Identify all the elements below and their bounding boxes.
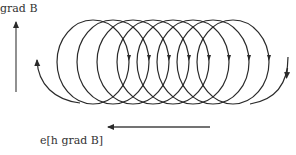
- gyration-loop: [137, 20, 209, 104]
- gyration-loop: [197, 20, 269, 104]
- direction-arrowhead: [207, 55, 211, 61]
- gyration-loop: [97, 20, 169, 104]
- direction-arrowhead: [187, 55, 191, 61]
- gyration-loop: [117, 20, 189, 104]
- trajectory-start-curve: [37, 60, 80, 103]
- direction-arrowhead: [247, 55, 251, 61]
- direction-arrowhead: [267, 55, 271, 61]
- direction-arrowhead: [227, 55, 231, 61]
- gyration-loop: [77, 20, 149, 104]
- direction-arrowhead: [127, 55, 131, 61]
- direction-arrowhead: [147, 55, 151, 61]
- gyration-loop: [157, 20, 229, 104]
- gradient-drift-diagram: [0, 0, 296, 155]
- direction-arrowhead: [167, 55, 171, 61]
- gyration-loop: [177, 20, 249, 104]
- gyration-loops: [57, 20, 271, 104]
- gyration-loop: [57, 20, 129, 104]
